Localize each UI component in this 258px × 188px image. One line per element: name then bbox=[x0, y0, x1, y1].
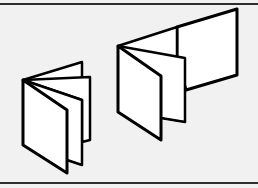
large-brochure-icon bbox=[118, 9, 237, 140]
small-brochure-icon bbox=[23, 62, 90, 173]
illustration-canvas: Line illustration of two accordion-folde… bbox=[0, 0, 258, 188]
brochures-illustration bbox=[0, 0, 258, 188]
